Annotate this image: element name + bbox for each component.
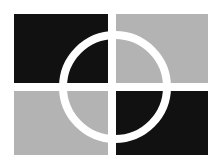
quadrant-circle-logo [0,0,220,167]
logo-canvas: Abstract logo: four-quadrant square with… [0,0,220,167]
